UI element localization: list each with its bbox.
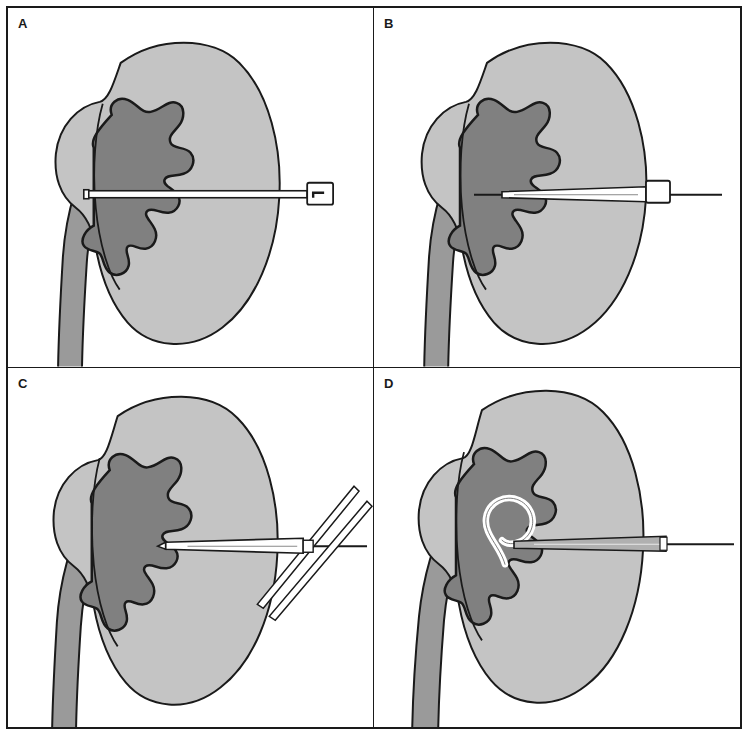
sheath-hub: [646, 181, 670, 203]
panel-grid: A: [8, 8, 740, 727]
panel-a-illustration: [8, 8, 373, 367]
needle-shaft: [86, 191, 307, 198]
dilator-connector: [303, 540, 313, 552]
panel-b-label: B: [384, 16, 394, 31]
panel-d-illustration: [374, 368, 740, 728]
figure-frame: A: [6, 6, 742, 729]
panel-d-label: D: [384, 376, 394, 391]
panel-c-illustration: [8, 368, 373, 728]
needle-tip: [84, 190, 89, 199]
dilator-lower: [269, 501, 372, 620]
panel-b-illustration: [374, 8, 740, 367]
panel-b: B: [374, 8, 740, 368]
panel-c-label: C: [18, 376, 28, 391]
panel-a: A: [8, 8, 374, 368]
panel-c: C: [8, 368, 374, 728]
panel-a-label: A: [18, 16, 28, 31]
panel-d: D: [374, 368, 740, 728]
catheter-connector: [660, 537, 667, 550]
